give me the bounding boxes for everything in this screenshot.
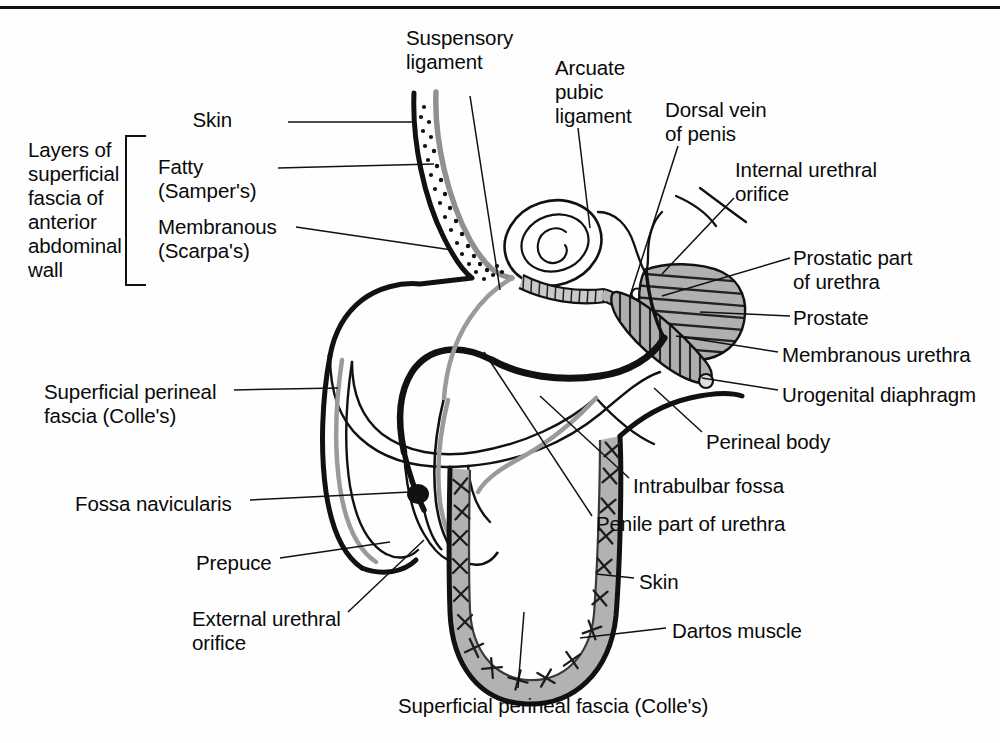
label-internal-urethral-orifice: Internal urethral orifice [735, 158, 877, 206]
leader-lines [234, 96, 790, 688]
label-superficial-perineal-fascia-colles: Superficial perineal fascia (Colle's) [44, 380, 216, 428]
fatty-layer-dots [419, 105, 504, 281]
label-prostate: Prostate [793, 306, 869, 330]
leader-fossa-navicularis [250, 492, 410, 500]
scrotum-dartos [449, 436, 621, 704]
label-skin-scrotum: Skin [639, 570, 678, 594]
label-prostatic-part-of-urethra: Prostatic part of urethra [793, 246, 912, 294]
pubic-bone [493, 188, 612, 298]
label-fossa-navicularis: Fossa navicularis [75, 492, 232, 516]
label-dorsal-vein-of-penis: Dorsal vein of penis [665, 98, 766, 146]
leader-prepuce [280, 542, 390, 558]
figure-canvas: Skin Layers of superficial fascia of ant… [0, 0, 1000, 743]
leader-colles-left [234, 388, 338, 390]
leader-colles-bottom [518, 612, 524, 688]
label-perineal-body: Perineal body [706, 430, 830, 454]
label-fatty-sampers: Fatty (Samper's) [158, 155, 257, 203]
leader-arcuate [578, 128, 590, 228]
arcuate-pubic-ligament [519, 270, 606, 320]
label-urogenital-diaphragm: Urogenital diaphragm [782, 383, 976, 407]
leader-membranous [296, 227, 452, 250]
label-prepuce: Prepuce [196, 551, 272, 575]
leader-external-orifice [348, 540, 424, 612]
label-superficial-perineal-fascia-bottom: Superficial perineal fascia (Colle's) [398, 694, 708, 718]
label-external-urethral-orifice: External urethral orifice [192, 607, 341, 655]
label-arcuate-pubic-ligament: Arcuate pubic ligament [555, 56, 632, 128]
label-membranous-scarpas: Membranous (Scarpa's) [158, 215, 277, 263]
fascia-layers-bracket [126, 136, 145, 285]
abdominal-skin-outline [330, 93, 472, 356]
label-dartos-muscle: Dartos muscle [672, 619, 802, 643]
label-penile-part-of-urethra: Penile part of urethra [596, 512, 785, 536]
label-membranous-urethra: Membranous urethra [782, 343, 971, 367]
bladder-and-pelvic-outline [598, 188, 746, 272]
label-layers-of-superficial-fascia: Layers of superficial fascia of anterior… [28, 138, 122, 282]
leader-fatty [278, 164, 434, 168]
label-suspensory-ligament: Suspensory ligament [406, 26, 513, 74]
label-intrabulbar-fossa: Intrabulbar fossa [633, 474, 784, 498]
label-skin-top: Skin [132, 108, 232, 132]
